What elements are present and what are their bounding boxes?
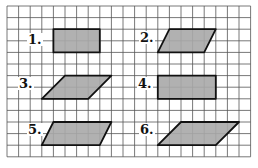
shape-1-label: 1. xyxy=(28,32,42,47)
shape-4-rectangle xyxy=(158,76,216,99)
shape-3-parallelogram xyxy=(42,76,112,99)
shape-3-label: 3. xyxy=(19,76,33,91)
shape-5-label: 5. xyxy=(28,122,42,137)
shape-5-parallelogram xyxy=(42,122,112,145)
grid-figure: 1.2.3.4.5.6. xyxy=(0,0,258,168)
shape-6-parallelogram xyxy=(158,122,239,145)
shape-2-parallelogram xyxy=(158,29,216,52)
shape-4-label: 4. xyxy=(138,76,152,91)
shape-1-rectangle xyxy=(53,29,99,52)
shape-6-label: 6. xyxy=(140,122,154,137)
shape-2-label: 2. xyxy=(140,30,154,45)
